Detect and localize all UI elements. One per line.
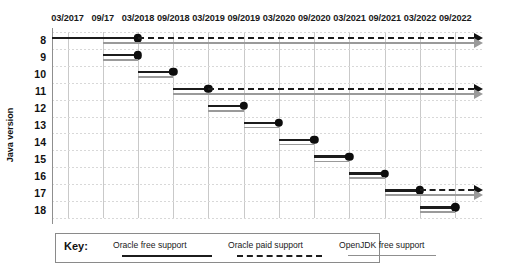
series-segment-oracle-free-support-java-17 [385, 189, 420, 191]
x-tick-09-2020: 09/2020 [298, 13, 331, 23]
series-segment-oracle-free-support-java-18 [420, 206, 455, 208]
legend-item-swatch-solid-gray [348, 255, 436, 256]
x-tick-09-2018: 09/2018 [157, 13, 190, 23]
gridline-horizontal [52, 184, 482, 185]
y-tick-17: 17 [20, 187, 46, 199]
x-tick-03-2019: 03/2019 [192, 13, 225, 23]
y-tick-11: 11 [20, 85, 46, 97]
series-segment-openjdk-free-support-java-14 [279, 144, 314, 146]
y-tick-16: 16 [20, 170, 46, 182]
ongoing-arrow-openjdk-free-support-java-8 [474, 38, 483, 48]
java-support-timeline-chart: 03/201709/1703/201809/201803/201909/2019… [0, 0, 516, 272]
series-segment-openjdk-free-support-java-11 [173, 93, 474, 95]
gridline-vertical [173, 32, 174, 218]
y-tick-9: 9 [20, 51, 46, 63]
gridline-horizontal [52, 133, 482, 134]
series-segment-openjdk-free-support-java-17 [385, 194, 474, 196]
series-segment-oracle-free-support-java-11 [173, 88, 208, 90]
series-segment-oracle-free-support-java-9 [103, 54, 138, 56]
series-segment-openjdk-free-support-java-12 [208, 110, 243, 112]
series-segment-oracle-free-support-java-16 [349, 172, 384, 174]
series-segment-oracle-paid-support-java-11 [208, 88, 474, 90]
gridline-horizontal [52, 49, 482, 50]
legend-item-label: Oracle paid support [228, 240, 331, 250]
series-segment-openjdk-free-support-java-16 [349, 177, 384, 179]
gridline-horizontal [52, 66, 482, 67]
series-segment-oracle-paid-support-java-8 [138, 37, 474, 39]
y-axis-line [52, 28, 53, 224]
y-axis-title: Java version [5, 108, 15, 163]
x-tick-09-2021: 09/2021 [368, 13, 401, 23]
legend-item-swatch-solid-dark [122, 255, 212, 257]
gridline-horizontal [52, 117, 482, 118]
legend-item-oracle-free-support: Oracle free support [113, 240, 221, 257]
series-segment-openjdk-free-support-java-18 [420, 211, 455, 213]
ongoing-arrow-openjdk-free-support-java-11 [474, 89, 483, 99]
plot-area [52, 32, 482, 218]
x-tick-09-2019: 09/2019 [227, 13, 260, 23]
gridline-horizontal [52, 201, 482, 202]
legend: Key: Oracle free supportOracle paid supp… [55, 233, 380, 263]
series-segment-oracle-free-support-java-15 [314, 155, 349, 157]
x-tick-09-17: 09/17 [92, 13, 115, 23]
series-segment-oracle-paid-support-java-17 [420, 189, 474, 191]
legend-item-label: OpenJDK free support [339, 240, 445, 250]
ongoing-arrow-openjdk-free-support-java-17 [474, 190, 483, 200]
gridline-horizontal [52, 32, 482, 33]
legend-inner: Key: Oracle free supportOracle paid supp… [56, 234, 379, 262]
gridline-vertical [208, 32, 209, 218]
legend-item-swatch-dashed-dark [237, 255, 322, 257]
y-tick-18: 18 [20, 204, 46, 216]
y-tick-13: 13 [20, 119, 46, 131]
series-segment-oracle-free-support-java-10 [138, 71, 173, 73]
x-tick-03-2021: 03/2021 [333, 13, 366, 23]
series-segment-oracle-free-support-java-8 [52, 37, 138, 39]
series-segment-openjdk-free-support-java-10 [138, 76, 173, 78]
y-tick-8: 8 [20, 34, 46, 46]
series-segment-openjdk-free-support-java-15 [314, 161, 349, 163]
legend-item-label: Oracle free support [113, 240, 221, 250]
x-tick-03-2022: 03/2022 [404, 13, 437, 23]
gridline-vertical [138, 32, 139, 218]
legend-item-openjdk-free-support: OpenJDK free support [339, 240, 445, 256]
legend-item-oracle-paid-support: Oracle paid support [228, 240, 331, 257]
gridline-vertical [68, 32, 69, 218]
series-segment-oracle-free-support-java-12 [208, 105, 243, 107]
gridline-vertical [349, 32, 350, 218]
series-segment-openjdk-free-support-java-13 [244, 127, 279, 129]
x-tick-03-2018: 03/2018 [122, 13, 155, 23]
x-tick-09-2022: 09/2022 [439, 13, 472, 23]
series-segment-oracle-free-support-java-13 [244, 122, 279, 124]
x-tick-03-2020: 03/2020 [263, 13, 296, 23]
legend-key-label: Key: [64, 240, 88, 252]
gridline-horizontal [52, 150, 482, 151]
y-tick-15: 15 [20, 153, 46, 165]
gridline-horizontal [52, 83, 482, 84]
x-tick-03-2017: 03/2017 [51, 13, 84, 23]
gridline-horizontal [52, 167, 482, 168]
y-tick-14: 14 [20, 136, 46, 148]
series-segment-openjdk-free-support-java-8 [103, 42, 474, 44]
gridline-vertical [314, 32, 315, 218]
gridline-horizontal [52, 218, 482, 219]
y-tick-12: 12 [20, 102, 46, 114]
series-segment-openjdk-free-support-java-9 [103, 59, 138, 61]
gridline-horizontal [52, 100, 482, 101]
gridline-vertical [244, 32, 245, 218]
y-tick-10: 10 [20, 68, 46, 80]
series-segment-oracle-free-support-java-14 [279, 139, 314, 141]
